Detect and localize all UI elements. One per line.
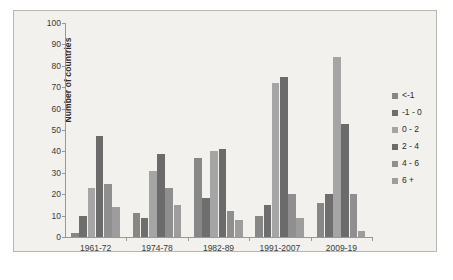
y-axis-tick-label: 80 xyxy=(35,62,61,71)
chart-legend: <-1-1 - 00 - 22 - 44 - 66 + xyxy=(392,87,448,189)
legend-item[interactable]: 2 - 4 xyxy=(392,138,448,155)
legend-swatch-icon xyxy=(392,161,398,167)
legend-swatch-icon xyxy=(392,127,398,133)
bar xyxy=(341,124,349,237)
y-axis-tick-mark xyxy=(62,194,66,195)
bar xyxy=(174,205,182,237)
y-axis-tick-mark xyxy=(62,44,66,45)
legend-swatch-icon xyxy=(392,110,398,116)
bar xyxy=(317,203,325,237)
bar xyxy=(325,194,333,237)
legend-label: 4 - 6 xyxy=(402,159,419,168)
bar xyxy=(264,205,272,237)
bar xyxy=(210,151,218,237)
y-axis-tick-label: 30 xyxy=(35,169,61,178)
bar xyxy=(350,194,358,237)
chart-figure: Number of countries 10090807060504030201… xyxy=(13,10,437,252)
legend-swatch-icon xyxy=(392,93,398,99)
x-axis-tick-mark xyxy=(372,237,373,241)
bar xyxy=(358,231,366,237)
y-axis-tick-label: 50 xyxy=(35,126,61,135)
legend-item[interactable]: 6 + xyxy=(392,172,448,189)
legend-label: 6 + xyxy=(402,176,414,185)
bar xyxy=(235,220,243,237)
y-axis-tick-label: 60 xyxy=(35,104,61,113)
x-axis-tick-mark xyxy=(188,237,189,241)
legend-item[interactable]: 4 - 6 xyxy=(392,155,448,172)
legend-label: <-1 xyxy=(402,91,415,100)
y-axis-tick-mark xyxy=(62,109,66,110)
legend-item[interactable]: <-1 xyxy=(392,87,448,104)
bar xyxy=(149,171,157,237)
bar xyxy=(165,188,173,237)
x-axis-label: 1961-72 xyxy=(80,243,111,253)
bar xyxy=(133,213,141,237)
y-axis-tick-label: 90 xyxy=(35,40,61,49)
legend-label: 2 - 4 xyxy=(402,142,419,151)
y-axis-tick-label: 40 xyxy=(35,147,61,156)
plot-area: 1009080706050403020100 1961-721974-78198… xyxy=(65,23,372,237)
x-axis-line xyxy=(65,237,373,238)
y-axis-tick-label: 0 xyxy=(35,233,61,242)
bar xyxy=(255,216,263,237)
bar xyxy=(141,218,149,237)
bar xyxy=(288,194,296,237)
y-axis-tick-mark xyxy=(62,237,66,238)
bar xyxy=(227,211,235,237)
x-axis-label: 1974-78 xyxy=(141,243,172,253)
bar xyxy=(272,83,280,237)
x-axis-tick-mark xyxy=(126,237,127,241)
legend-item[interactable]: 0 - 2 xyxy=(392,121,448,138)
x-axis-tick-mark xyxy=(249,237,250,241)
y-axis-tick-mark xyxy=(62,130,66,131)
y-axis-tick-mark xyxy=(62,151,66,152)
bar xyxy=(104,184,112,238)
legend-swatch-icon xyxy=(392,178,398,184)
y-axis-tick-label: 10 xyxy=(35,211,61,220)
bar xyxy=(280,77,288,238)
x-axis-label: 1982-89 xyxy=(203,243,234,253)
bar xyxy=(296,218,304,237)
bar xyxy=(333,57,341,237)
bar xyxy=(112,207,120,237)
bar xyxy=(71,233,79,237)
bar xyxy=(96,136,104,237)
y-axis-tick-mark xyxy=(62,216,66,217)
x-axis-tick-mark xyxy=(311,237,312,241)
bar xyxy=(88,188,96,237)
x-axis-label: 1991-2007 xyxy=(260,243,301,253)
y-axis-tick-label: 70 xyxy=(35,83,61,92)
legend-item[interactable]: -1 - 0 xyxy=(392,104,448,121)
y-axis-tick-mark xyxy=(62,87,66,88)
bar xyxy=(79,216,87,237)
y-axis-tick-label: 100 xyxy=(35,19,61,28)
bar xyxy=(219,149,227,237)
y-axis-tick-mark xyxy=(62,23,66,24)
bar xyxy=(157,154,165,237)
legend-swatch-icon xyxy=(392,144,398,150)
legend-label: 0 - 2 xyxy=(402,125,419,134)
y-axis-tick-label: 20 xyxy=(35,190,61,199)
bar xyxy=(202,198,210,237)
y-axis-tick-mark xyxy=(62,173,66,174)
legend-label: -1 - 0 xyxy=(402,108,422,117)
x-axis-label: 2009-19 xyxy=(326,243,357,253)
y-axis-tick-mark xyxy=(62,66,66,67)
bar xyxy=(194,158,202,237)
